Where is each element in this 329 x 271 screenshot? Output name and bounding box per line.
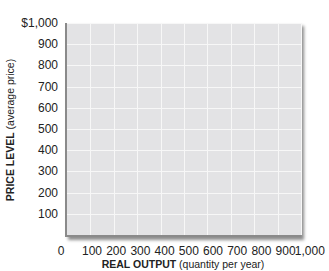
x-tick-label: 300 <box>130 245 150 257</box>
grid-line-horizontal <box>67 65 301 66</box>
y-axis-label-rest: (average price) <box>4 59 16 130</box>
x-axis-label: REAL OUTPUT (quantity per year) <box>102 258 265 270</box>
y-tick-label: 300 <box>38 165 58 177</box>
x-tick-label: 600 <box>203 245 223 257</box>
y-axis-label-bold: PRICE LEVEL <box>4 132 16 201</box>
x-tick-label: 500 <box>179 245 199 257</box>
grid-line-horizontal <box>67 214 301 215</box>
grid-line-horizontal <box>67 171 301 172</box>
y-tick-label: 100 <box>38 208 58 220</box>
grid-line-horizontal <box>67 129 301 130</box>
plot-area <box>65 23 301 237</box>
grid-line-horizontal <box>67 23 301 24</box>
y-tick-label: 500 <box>38 123 58 135</box>
y-tick-label: 200 <box>38 187 58 199</box>
grid-line-vertical <box>301 23 302 235</box>
x-tick-label: 700 <box>227 245 247 257</box>
x-tick-label: 0 <box>58 245 65 257</box>
grid-line-horizontal <box>67 108 301 109</box>
y-tick-label: 700 <box>38 81 58 93</box>
y-tick-label: 400 <box>38 144 58 156</box>
x-tick-label: 100 <box>82 245 102 257</box>
x-axis-label-rest: (quantity per year) <box>179 258 264 270</box>
y-tick-label: $1,000 <box>21 17 58 29</box>
grid-line-horizontal <box>67 150 301 151</box>
x-axis-label-bold: REAL OUTPUT <box>102 258 176 270</box>
grid-line-horizontal <box>67 193 301 194</box>
y-tick-label: 900 <box>38 38 58 50</box>
y-tick-label: 800 <box>38 59 58 71</box>
y-axis-label: PRICE LEVEL (average price) <box>4 59 16 201</box>
x-tick-label: 200 <box>106 245 126 257</box>
x-tick-label: 1,000 <box>295 245 325 257</box>
x-tick-label: 900 <box>276 245 296 257</box>
grid-line-horizontal <box>67 44 301 45</box>
x-tick-label: 400 <box>155 245 175 257</box>
x-tick-label: 800 <box>251 245 271 257</box>
grid-line-horizontal <box>67 87 301 88</box>
y-tick-label: 600 <box>38 102 58 114</box>
